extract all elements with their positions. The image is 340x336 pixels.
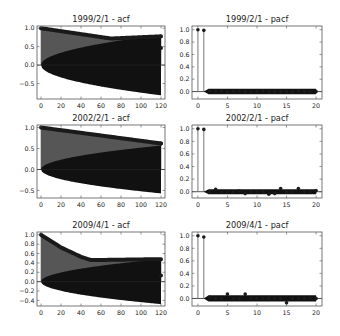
y-tick-label: 0.2 (179, 75, 189, 82)
pacf-marker (308, 297, 312, 301)
subplot-title: 2009/4/1 - pacf (226, 220, 290, 230)
pacf-marker (243, 292, 247, 296)
x-tick-label: 15 (283, 102, 291, 109)
pacf-marker (261, 190, 265, 194)
pacf-marker (279, 297, 283, 301)
x-tick-label: 0 (196, 201, 200, 208)
pacf-marker (237, 89, 241, 93)
x-tick-label: 20 (57, 309, 65, 316)
pacf-marker (314, 90, 318, 94)
x-tick-label: 5 (225, 102, 229, 109)
pacf-marker (291, 190, 295, 194)
pacf-marker (285, 190, 289, 194)
x-tick-label: 0 (39, 201, 43, 208)
x-tick-label: 10 (253, 309, 261, 316)
subplot-1999-2-1-pacf: 051015201.00.80.60.40.20.01999/2/1 - pac… (179, 14, 322, 109)
y-tick-label: 0.5 (24, 43, 34, 50)
x-tick-label: 20 (312, 102, 320, 109)
pacf-marker (255, 297, 259, 301)
y-tick-label: 0.0 (179, 88, 189, 95)
y-tick-label: 0.0 (24, 166, 34, 173)
x-tick-label: 15 (283, 309, 291, 316)
pacf-marker (267, 297, 271, 301)
y-tick-label: −0.5 (19, 80, 34, 87)
x-tick-label: 100 (135, 102, 147, 109)
pacf-marker (196, 127, 200, 131)
y-tick-label: 0.2 (179, 175, 189, 182)
subplot-2002-2-1-acf: 0204060801001201.00.50.0−0.52002/2/1 - a… (19, 113, 167, 208)
pacf-marker (249, 90, 253, 94)
y-tick-label: 0.0 (24, 278, 34, 285)
pacf-marker (214, 187, 218, 191)
pacf-marker (314, 297, 318, 301)
pacf-marker (226, 292, 230, 296)
x-tick-label: 5 (225, 309, 229, 316)
pacf-marker (249, 190, 253, 194)
subplot-title: 2002/2/1 - pacf (226, 113, 290, 123)
y-tick-label: 0.2 (179, 282, 189, 289)
x-tick-label: 0 (39, 309, 43, 316)
y-tick-label: 0.8 (24, 240, 34, 247)
x-tick-label: 100 (135, 309, 147, 316)
x-tick-label: 20 (312, 309, 320, 316)
pacf-marker (273, 192, 277, 196)
y-tick-label: −0.4 (19, 297, 34, 304)
pacf-marker (273, 90, 277, 94)
x-tick-label: 80 (117, 102, 125, 109)
x-tick-label: 80 (117, 201, 125, 208)
pacf-marker (202, 128, 206, 132)
x-tick-label: 40 (77, 102, 85, 109)
subplot-1999-2-1-acf: 0204060801001201.00.50.0−0.51999/2/1 - a… (19, 14, 167, 109)
y-tick-label: 0.4 (179, 63, 189, 70)
y-tick-label: 0.8 (179, 245, 189, 252)
x-tick-label: 10 (253, 201, 261, 208)
x-tick-label: 60 (97, 309, 105, 316)
pacf-marker (232, 90, 236, 94)
pacf-marker (237, 189, 241, 193)
y-tick-label: 0.0 (179, 188, 189, 195)
pacf-marker (220, 297, 224, 301)
y-tick-label: 1.0 (179, 232, 189, 239)
x-tick-label: 0 (196, 102, 200, 109)
pacf-marker (243, 90, 247, 94)
y-tick-label: −0.5 (19, 187, 34, 194)
subplot-title: 2002/2/1 - acf (72, 113, 130, 123)
y-tick-label: 0.0 (179, 295, 189, 302)
y-tick-label: 0.5 (24, 145, 34, 152)
pacf-marker (297, 187, 301, 191)
pacf-marker (237, 297, 241, 301)
pacf-marker (232, 297, 236, 301)
subplot-title: 2009/4/1 - acf (72, 220, 130, 230)
pacf-marker (297, 89, 301, 93)
plot-area (192, 28, 322, 94)
pacf-marker (226, 90, 230, 94)
pacf-marker (214, 90, 218, 94)
x-tick-label: 120 (155, 201, 167, 208)
y-tick-label: 0.6 (179, 257, 189, 264)
y-tick-label: 0.4 (24, 259, 34, 266)
y-tick-label: 1.0 (179, 26, 189, 33)
y-tick-label: 1.0 (24, 24, 34, 31)
x-tick-label: 60 (97, 102, 105, 109)
pacf-marker (255, 90, 259, 94)
plot-area (192, 127, 322, 196)
x-tick-label: 120 (155, 102, 167, 109)
pacf-marker (249, 297, 253, 301)
pacf-marker (279, 187, 283, 191)
pacf-marker (279, 90, 283, 94)
y-tick-label: 0.6 (24, 250, 34, 257)
subplot-2009-4-1-pacf: 051015201.00.80.60.40.20.02009/4/1 - pac… (179, 220, 322, 316)
pacf-marker (243, 192, 247, 196)
x-tick-label: 15 (283, 201, 291, 208)
y-tick-label: 0.4 (179, 163, 189, 170)
plot-area (192, 234, 322, 305)
plot-area (37, 235, 165, 304)
pacf-marker (273, 297, 277, 301)
pacf-marker (202, 29, 206, 33)
pacf-marker (261, 89, 265, 93)
axes-frame (192, 125, 322, 198)
pacf-marker (208, 89, 212, 93)
pacf-marker (208, 190, 212, 194)
subplot-title: 1999/2/1 - pacf (226, 14, 290, 24)
pacf-marker (202, 235, 206, 239)
